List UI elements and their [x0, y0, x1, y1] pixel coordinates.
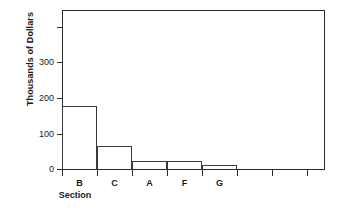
x-tick-mark-6 — [272, 170, 273, 176]
x-tick-mark-3 — [167, 170, 168, 176]
x-axis-title: Section — [38, 191, 112, 200]
x-tick-label-f: F — [167, 179, 203, 188]
x-tick-mark-4 — [202, 170, 203, 176]
y-tick-label-300: 300 — [14, 58, 54, 67]
x-tick-mark-5 — [237, 170, 238, 176]
y-tick-label-100: 100 — [14, 130, 54, 139]
pareto-chart: Thousands of Dollars 300 200 100 0 B C A… — [0, 0, 338, 211]
y-tick-label-0: 0 — [14, 165, 54, 174]
bar-a — [132, 161, 167, 170]
x-tick-mark-1 — [97, 170, 98, 176]
x-tick-mark-7 — [307, 170, 308, 176]
bar-c — [97, 146, 132, 170]
y-tick-label-200: 200 — [14, 94, 54, 103]
bar-g — [202, 165, 237, 170]
bar-b — [62, 106, 97, 170]
x-tick-label-a: A — [132, 179, 168, 188]
x-tick-mark-0 — [62, 170, 63, 176]
x-tick-mark-2 — [132, 170, 133, 176]
x-tick-label-b: B — [62, 179, 98, 188]
bar-f — [167, 161, 202, 170]
x-tick-label-c: C — [97, 179, 133, 188]
x-tick-label-g: G — [202, 179, 238, 188]
